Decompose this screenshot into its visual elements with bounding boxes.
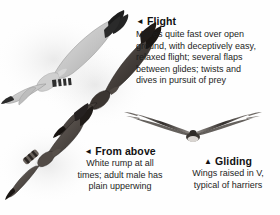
caption-gliding: ▲Gliding Wings raised in V, typical of h…	[176, 155, 280, 191]
caption-flight-body: Moves quite fast over open ground, with …	[136, 29, 276, 87]
caption-line: ground, with deceptively easy,	[136, 41, 276, 53]
caption-line: plain upperwing	[62, 181, 178, 193]
banded-tail-detail	[50, 75, 73, 87]
caption-flight: ◄Flight Moves quite fast over open groun…	[136, 15, 276, 87]
up-triangle-icon: ▲	[204, 157, 212, 166]
caption-gliding-heading: ▲Gliding	[176, 155, 280, 167]
caption-gliding-body: Wings raised in V, typical of harriers	[176, 168, 280, 191]
caption-line: between glides; twists and	[136, 64, 276, 76]
harrier-gliding-silhouette	[124, 112, 262, 142]
caption-line: White rump at all	[62, 158, 178, 170]
caption-flight-title: Flight	[147, 15, 176, 27]
caption-from-above-title: From above	[95, 145, 156, 157]
left-triangle-icon: ◄	[84, 147, 92, 156]
caption-line: Moves quite fast over open	[136, 29, 276, 41]
caption-from-above-body: White rump at all times; adult male has …	[62, 158, 178, 193]
field-guide-plate: ◄Flight Moves quite fast over open groun…	[0, 0, 280, 215]
caption-from-above-heading: ◄From above	[62, 145, 178, 157]
caption-from-above: ◄From above White rump at all times; adu…	[62, 145, 178, 193]
pale-grey-harrier-flying	[1, 10, 128, 105]
caption-flight-heading: ◄Flight	[136, 15, 276, 27]
left-triangle-icon: ◄	[136, 17, 144, 26]
caption-line: times; adult male has	[62, 170, 178, 182]
caption-line: typical of harriers	[176, 180, 280, 192]
caption-line: Wings raised in V,	[176, 168, 280, 180]
caption-gliding-title: Gliding	[215, 155, 252, 167]
caption-line: dives in pursuit of prey	[136, 75, 276, 87]
caption-line: relaxed flight; several flaps	[136, 52, 276, 64]
